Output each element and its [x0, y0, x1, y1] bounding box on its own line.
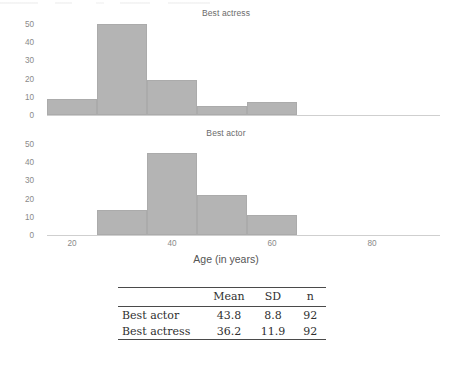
x-tick-80: 80: [367, 239, 376, 248]
bar-best-actress-25-35: [97, 24, 147, 115]
bar-best-actor-25-35: [97, 210, 147, 236]
x-tick-60: 60: [267, 239, 276, 248]
table-header-row: Mean SD n: [118, 288, 326, 307]
cell-sd: 8.8: [252, 307, 295, 324]
bar-best-actress-45-55: [197, 106, 247, 115]
cell-mean: 36.2: [206, 323, 251, 340]
table-header-n: n: [295, 288, 327, 307]
cell-mean: 43.8: [206, 307, 251, 324]
histogram-panel-best-actress: Best actress 50 40 30 20 10 0: [0, 0, 452, 125]
histogram-panel-best-actor: Best actor 50 40 30 20 10 0 20 40 60 80 …: [0, 125, 452, 270]
plot-area-best-actress: [0, 24, 452, 116]
row-label-best-actor: Best actor: [118, 307, 206, 324]
table-row: Best actor 43.8 8.8 92: [118, 307, 326, 324]
x-axis-label: Age (in years): [0, 253, 452, 265]
cell-n: 92: [295, 307, 327, 324]
chart-title-best-actress: Best actress: [0, 8, 452, 18]
plot-area-best-actor: [0, 144, 452, 236]
table-header-mean: Mean: [206, 288, 251, 307]
x-axis-line-best-actress: [47, 115, 440, 116]
bar-best-actor-55-65: [247, 215, 297, 235]
x-tick-20: 20: [67, 239, 76, 248]
table-row: Best actress 36.2 11.9 92: [118, 323, 326, 340]
bar-best-actor-35-45: [147, 153, 197, 235]
cell-sd: 11.9: [252, 323, 295, 340]
summary-statistics-table: Mean SD n Best actor 43.8 8.8 92 Best ac…: [118, 287, 326, 340]
table-header-sd: SD: [252, 288, 295, 307]
x-tick-40: 40: [167, 239, 176, 248]
cell-n: 92: [295, 323, 327, 340]
bar-best-actress-55-65: [247, 102, 297, 115]
row-label-best-actress: Best actress: [118, 323, 206, 340]
x-axis-line-best-actor: [47, 235, 440, 236]
bar-best-actress-35-45: [147, 80, 197, 115]
bar-best-actor-45-55: [197, 195, 247, 235]
chart-title-best-actor: Best actor: [0, 128, 452, 138]
bar-best-actress-15-25: [47, 99, 97, 115]
table-header-blank: [118, 288, 206, 307]
